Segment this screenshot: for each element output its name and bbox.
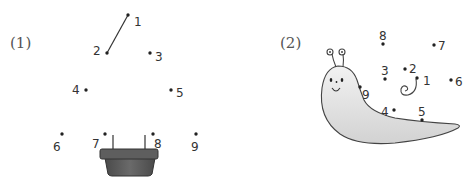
dot-number: 1 — [134, 15, 142, 29]
dot-1[interactable]: 1 — [126, 13, 141, 29]
dot-number: 5 — [418, 105, 426, 119]
dot-5[interactable]: 5 — [169, 86, 183, 100]
dot-2[interactable]: 2 — [93, 44, 109, 58]
dot-number: 7 — [92, 137, 100, 151]
flower-pot — [100, 149, 158, 176]
dot-6[interactable]: 6 — [53, 132, 64, 154]
connecting-line-1-2 — [107, 15, 128, 53]
dot-number: 2 — [93, 44, 101, 58]
dot-number: 4 — [72, 83, 80, 97]
dot-number: 2 — [409, 62, 417, 76]
dot-number: 6 — [53, 140, 61, 154]
dot-number: 9 — [362, 88, 370, 102]
connect-the-dots-worksheet: (1) 1 2 3 4 5 6 7 8 9 (2) — [0, 0, 467, 179]
dot-3[interactable]: 3 — [148, 50, 162, 64]
dot-7[interactable]: 7 — [92, 132, 107, 151]
dot-1[interactable]: 1 — [415, 74, 430, 88]
dot-number: 4 — [381, 105, 389, 119]
dot-number: 6 — [455, 75, 463, 89]
dot-4[interactable]: 4 — [72, 83, 88, 97]
dot-6[interactable]: 6 — [449, 75, 462, 89]
puzzle-2: (2) 1 2 3 4 5 6 7 8 9 — [280, 29, 463, 144]
antenna-right — [343, 54, 344, 67]
slug-figure — [321, 49, 459, 144]
antenna-left — [332, 54, 336, 67]
dot-8[interactable]: 8 — [151, 132, 161, 151]
slug-eye-right — [341, 78, 344, 82]
dot-8[interactable]: 8 — [379, 29, 387, 46]
dot-number: 8 — [154, 137, 162, 151]
dot-5[interactable]: 5 — [418, 105, 426, 122]
puzzle-1-label: (1) — [10, 34, 31, 52]
dot-4[interactable]: 4 — [381, 105, 396, 119]
puzzle-2-label: (2) — [280, 34, 301, 52]
dot-3[interactable]: 3 — [381, 64, 389, 81]
dot-number: 8 — [379, 29, 387, 43]
dot-number: 3 — [155, 50, 163, 64]
dot-9[interactable]: 9 — [191, 132, 199, 154]
dot-number: 1 — [423, 74, 431, 88]
dot-number: 3 — [381, 64, 389, 78]
slug-eye-left — [330, 78, 333, 82]
dot-number: 5 — [176, 86, 184, 100]
dot-number: 7 — [438, 39, 446, 53]
spiral-shell-hint — [401, 79, 416, 95]
dot-2[interactable]: 2 — [403, 62, 416, 76]
dot-7[interactable]: 7 — [432, 39, 445, 53]
puzzle-1: (1) 1 2 3 4 5 6 7 8 9 — [10, 13, 199, 176]
dot-number: 9 — [191, 140, 199, 154]
